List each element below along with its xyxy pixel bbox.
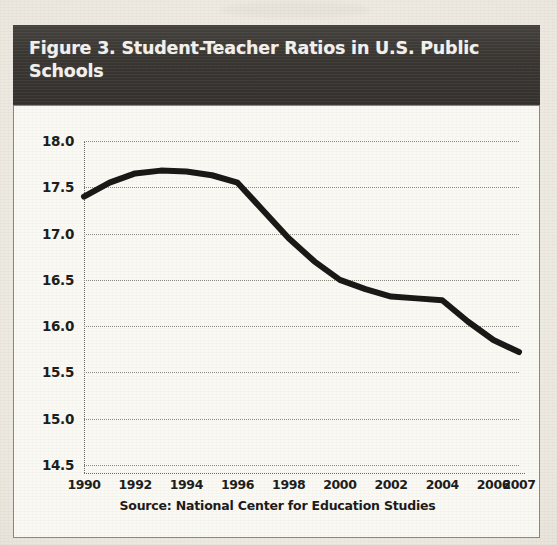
x-tick-label: 1992 — [119, 477, 152, 492]
y-tick-label: 15.5 — [42, 364, 74, 380]
y-tick-label: 14.5 — [42, 457, 74, 473]
x-tick-label: 2002 — [374, 477, 407, 492]
x-tick-label: 2004 — [426, 477, 459, 492]
scan-smudge — [220, 2, 370, 18]
x-tick-label: 1998 — [272, 477, 305, 492]
chart-panel: 14.515.015.516.016.517.017.518.0 1990199… — [13, 105, 540, 538]
figure-title: Figure 3. Student-Teacher Ratios in U.S.… — [29, 37, 499, 84]
y-tick-label: 16.0 — [42, 318, 74, 334]
gridline-14-5 — [84, 465, 519, 466]
y-tick-label: 16.5 — [42, 272, 74, 288]
plot-area: 14.515.015.516.016.517.017.518.0 1990199… — [84, 141, 519, 465]
y-tick-label: 18.0 — [42, 133, 74, 149]
x-tick-label: 1996 — [221, 477, 254, 492]
x-tick-label: 1990 — [67, 477, 100, 492]
x-tick-label: 2007 — [502, 477, 535, 492]
x-tick-label: 1994 — [170, 477, 203, 492]
y-tick-label: 17.0 — [42, 226, 74, 242]
source-note: Source: National Center for Education St… — [14, 498, 541, 513]
x-tick-label: 2000 — [323, 477, 356, 492]
data-series-line — [84, 141, 519, 465]
scanned-page-background: Figure 3. Student-Teacher Ratios in U.S.… — [0, 0, 557, 545]
figure-title-banner: Figure 3. Student-Teacher Ratios in U.S.… — [13, 25, 540, 105]
x-axis-line — [84, 473, 525, 474]
figure-container: Figure 3. Student-Teacher Ratios in U.S.… — [13, 25, 540, 538]
y-tick-label: 17.5 — [42, 179, 74, 195]
y-tick-label: 15.0 — [42, 411, 74, 427]
